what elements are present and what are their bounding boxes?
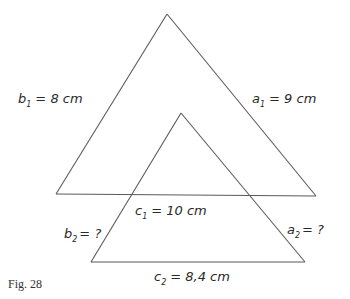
triangle-1-side-c (56, 194, 316, 196)
label-c1-var: c (135, 203, 142, 218)
label-a1-value: = 9 cm (269, 91, 316, 106)
label-b1: b1= 8 cm (18, 91, 83, 109)
label-b1-var: b (18, 91, 26, 106)
label-a1: a1= 9 cm (252, 91, 316, 109)
triangle-2-side-a (181, 113, 305, 262)
label-a2-var: a (287, 222, 295, 237)
label-b2-value: = ? (79, 226, 101, 241)
triangle-2 (91, 113, 305, 262)
figure-caption: Fig. 28 (8, 277, 42, 291)
similar-triangles-diagram: b1= 8 cm a1= 9 cm c1= 10 cm b2= ? a2= ? … (0, 0, 350, 299)
label-b2-sub: 2 (72, 235, 77, 244)
label-b1-value: = 8 cm (35, 91, 82, 106)
label-c2-sub: 2 (161, 278, 166, 287)
label-a2-value: = ? (302, 222, 324, 237)
label-b2-var: b (64, 226, 72, 241)
label-c2-var: c (154, 269, 161, 284)
label-c2: c2= 8,4 cm (154, 269, 230, 287)
label-a1-sub: 1 (260, 100, 265, 109)
label-a2: a2= ? (287, 222, 324, 240)
label-a1-var: a (252, 91, 260, 106)
label-c1-sub: 1 (142, 212, 147, 221)
triangle-2-side-b (91, 113, 181, 262)
label-c2-value: = 8,4 cm (170, 269, 230, 284)
label-b2: b2= ? (64, 226, 101, 244)
label-a2-sub: 2 (295, 231, 300, 240)
label-c1: c1= 10 cm (135, 203, 207, 221)
label-c1-value: = 10 cm (151, 203, 207, 218)
label-b1-sub: 1 (26, 100, 31, 109)
